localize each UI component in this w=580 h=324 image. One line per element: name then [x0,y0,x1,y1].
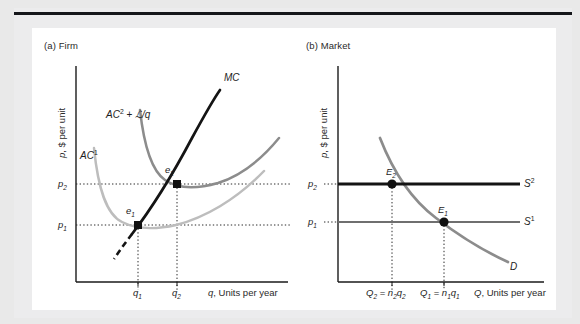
figure-root: (a) Firm p, $ per unit [0,0,580,324]
firm-ticklabel-q1: q1 [133,287,142,300]
firm-label-e1: e1 [126,205,135,218]
firm-ticklabel-p2: p2 [58,178,67,191]
market-label-s1: S1 [524,215,534,227]
market-curve-demand [380,138,508,262]
market-ticklabel-Q1: Q1 = n1q1 [420,287,460,300]
firm-label-ac2: AC2 + ℒ/q [106,108,150,120]
firm-label-mc: MC [224,72,240,83]
header-rule [14,12,572,15]
firm-curve-mc-dashed [114,234,132,259]
panel-market: (b) Market p, $ per unit [294,28,556,310]
panel-firm-xlabel: q, Units per year [208,287,278,298]
market-ticklabel-Q2: Q2 = n2q2 [366,287,406,300]
market-label-d: D [510,261,517,272]
firm-label-ac1: AC1 [80,149,98,161]
market-ticklabel-p1: p1 [308,216,317,229]
firm-point-e2 [173,180,181,188]
market-point-E1 [439,217,448,226]
market-label-E2: E2 [386,166,396,179]
firm-point-e1 [134,221,142,229]
figure-card: (a) Firm p, $ per unit [32,28,556,310]
firm-ticklabel-q2: q2 [172,287,181,300]
firm-label-e2: e2 [165,164,174,177]
market-point-E2 [387,179,396,188]
panel-market-xlabel: Q, Units per year [474,287,546,298]
market-label-s2: S2 [524,177,534,189]
panel-firm-plot [32,28,294,310]
firm-ticklabel-p1: p1 [58,219,67,232]
market-label-E1: E1 [438,204,448,217]
market-ticklabel-p2: p2 [308,178,317,191]
panel-firm: (a) Firm p, $ per unit [32,28,294,310]
